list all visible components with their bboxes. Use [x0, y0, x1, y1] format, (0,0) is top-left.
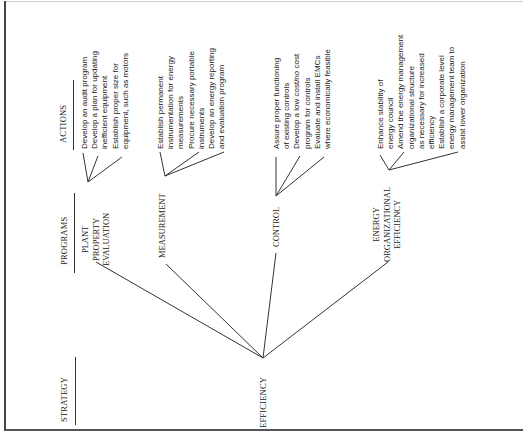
actions-header: ACTIONS: [58, 105, 68, 143]
action-line: Evaluate and install EMCs: [313, 49, 323, 149]
action-line: as necessary for increased: [417, 35, 427, 149]
programs-header: PROGRAMS: [59, 217, 69, 265]
program-label-line: CONTROL: [271, 207, 282, 247]
action-line: program for controls: [303, 49, 313, 149]
programs-header-rule: [74, 193, 75, 273]
program-plant-property-evaluation: PLANT PROPERTY EVALUATION: [80, 213, 112, 266]
action-line: energy management team to: [447, 35, 457, 149]
action-line: instrumentation for energy: [166, 48, 176, 149]
strategy-header-rule: [75, 357, 76, 425]
program-label-line: ORGANIZATIONAL: [382, 187, 393, 262]
program-label-line: MEASUREMENT: [157, 193, 168, 258]
action-line: Assure proper functioning: [272, 49, 282, 149]
strategy-efficiency-label: EFFICIENCY: [258, 377, 268, 428]
action-line: assist lower organization: [458, 35, 468, 149]
action-line: efficiency: [427, 35, 437, 149]
action-line: Develop an audit program: [80, 51, 90, 149]
program-label-line: PLANT: [80, 213, 91, 266]
action-line: Establish a corporate level: [437, 35, 447, 149]
action-line: Enhance stability of: [376, 35, 386, 149]
action-line: where economically feasible: [323, 49, 333, 149]
program-label-line: ENERGY: [371, 187, 382, 262]
strategy-header: STRATEGY: [59, 377, 69, 422]
program-label-line: EVALUATION: [101, 213, 112, 266]
action-line: of existing controls: [282, 49, 292, 149]
program-measurement: MEASUREMENT: [157, 193, 168, 258]
action-line: Establish proper size for: [111, 51, 121, 149]
actions-plant-property-evaluation: Develop an audit program Develop a plan …: [80, 51, 131, 149]
action-line: Develop a plan for updating: [90, 51, 100, 149]
actions-measurement: Establish permanent instrumentation for …: [156, 48, 227, 149]
action-line: Develop an energy reporting: [207, 48, 217, 149]
actions-header-rule: [73, 80, 74, 150]
action-line: organizational structure: [407, 35, 417, 149]
diagram-frame: STRATEGY PROGRAMS ACTIONS EFFICIENCY PLA…: [0, 0, 523, 443]
program-label-line: EFFICIENCY: [392, 187, 403, 262]
action-line: measurements: [176, 48, 186, 149]
program-label-line: PROPERTY: [91, 213, 102, 266]
actions-control: Assure proper functioning of existing co…: [272, 49, 333, 149]
action-line: Establish permanent: [156, 48, 166, 149]
action-line: Amend the energy management: [396, 35, 406, 149]
action-line: instruments: [197, 48, 207, 149]
action-line: Develop a low cost/no cost: [292, 49, 302, 149]
action-line: Procure necessary portable: [187, 48, 197, 149]
action-line: energy council: [386, 35, 396, 149]
action-line: inefficient equipment: [100, 51, 110, 149]
program-energy-organizational-efficiency: ENERGY ORGANIZATIONAL EFFICIENCY: [371, 187, 403, 262]
program-control: CONTROL: [271, 207, 282, 247]
action-line: equipment, such as motors: [121, 51, 131, 149]
actions-energy-organizational-efficiency: Enhance stability of energy council Amen…: [376, 35, 468, 149]
connector-efficiency-control: [263, 253, 276, 358]
connector-efficiency-energy: [263, 262, 388, 358]
action-line: and evaluation program: [217, 48, 227, 149]
